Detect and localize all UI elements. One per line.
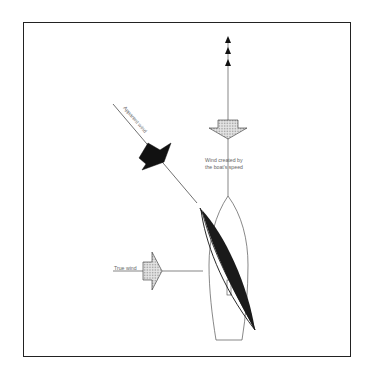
course-arrowhead-icon xyxy=(225,59,231,66)
true-wind: True wind xyxy=(113,252,203,290)
course-line xyxy=(225,36,231,196)
boat-speed-wind-arrow-icon xyxy=(209,120,247,139)
course-arrowhead-icon xyxy=(225,36,231,43)
boat-speed-wind-label-line2: the boat's speed xyxy=(205,164,243,170)
true-wind-arrow-icon xyxy=(143,252,162,290)
apparent-wind-diagram: Wind created by the boat's speed Apparen… xyxy=(0,0,372,374)
course-arrowhead-icon xyxy=(225,47,231,54)
true-wind-label: True wind xyxy=(114,265,137,271)
apparent-wind: Apparent wind xyxy=(113,104,197,203)
apparent-wind-arrow-icon xyxy=(139,143,171,170)
boat-speed-wind-label-line1: Wind created by xyxy=(205,157,243,163)
